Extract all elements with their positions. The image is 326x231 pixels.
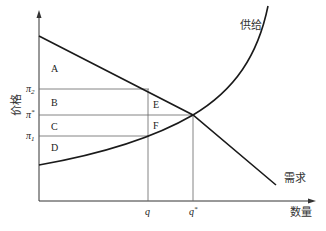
region-a: A xyxy=(51,63,59,74)
quantity-ticks: q q* xyxy=(145,205,198,217)
demand-label: 需求 xyxy=(284,172,306,185)
q-label: q xyxy=(145,206,150,217)
qstar-label: q* xyxy=(189,205,198,217)
x-axis-arrow-icon xyxy=(308,199,316,204)
region-c: C xyxy=(51,121,58,132)
region-e: E xyxy=(153,99,159,110)
y-axis-arrow-icon xyxy=(37,10,42,18)
guide-lines xyxy=(39,89,193,201)
region-labels: A B C D E F xyxy=(51,63,159,153)
x-axis-label: 数量 xyxy=(290,206,312,219)
pi2-label: π2 xyxy=(26,83,35,96)
region-d: D xyxy=(51,142,58,153)
supply-curve xyxy=(39,6,268,165)
demand-curve xyxy=(39,36,276,185)
price-ticks: π2 π* π1 xyxy=(26,83,35,143)
region-f: F xyxy=(153,120,159,131)
supply-label: 供给 xyxy=(240,18,262,32)
pi1-label: π1 xyxy=(26,130,35,143)
pistar-label: π* xyxy=(26,108,35,120)
y-axis-label: 价格 xyxy=(9,94,23,116)
supply-demand-diagram: 供给 需求 数量 价格 π2 π* π1 q q* A B C D E F xyxy=(0,0,326,231)
region-b: B xyxy=(51,97,58,108)
